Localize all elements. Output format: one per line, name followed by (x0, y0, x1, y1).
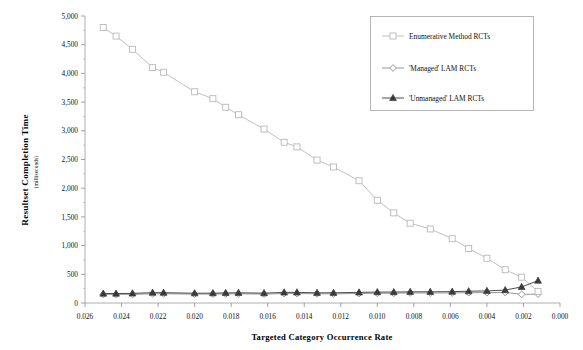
data-point-marker (161, 69, 167, 75)
legend-label: Enumerative Method RCTs (409, 32, 490, 41)
y-tick-label: 2,000 (62, 184, 79, 193)
data-point-marker (330, 164, 336, 170)
data-point-marker (466, 245, 472, 251)
y-axis-tick-labels: 05001,0001,5002,0002,5003,0003,5004,0004… (62, 12, 79, 308)
x-axis-tick-labels: 0.0260.0240.0220.0200.0180.0160.0140.012… (77, 312, 569, 321)
data-point-marker (113, 33, 119, 39)
x-tick-label: 0.018 (223, 312, 240, 321)
data-point-marker (519, 274, 525, 280)
x-tick-label: 0.010 (369, 312, 386, 321)
y-axis-title-group: Resultset Completion Time (milliseconds) (20, 114, 40, 225)
x-tick-label: 0.020 (186, 312, 203, 321)
data-point-marker (407, 220, 413, 226)
data-point-marker (130, 46, 136, 52)
x-axis-title: Targeted Category Occurrence Rate (251, 332, 392, 342)
data-point-marker (502, 267, 508, 273)
page-artifact-strip (0, 0, 583, 10)
data-point-marker (465, 288, 472, 294)
legend-label: 'Managed' LAM RCTs (409, 64, 476, 73)
chart-legend: Enumerative Method RCTs'Managed' LAM RCT… (371, 17, 534, 111)
x-tick-label: 0.008 (406, 312, 423, 321)
legend-label: 'Unmanaged' LAM RCTs (409, 94, 484, 103)
data-point-marker (281, 139, 287, 145)
x-axis-ticks (85, 303, 560, 307)
chart-canvas: 05001,0001,5002,0002,5003,0003,5004,0004… (0, 0, 583, 350)
y-tick-label: 1,000 (62, 241, 79, 250)
data-point-marker (100, 24, 106, 30)
x-tick-label: 0.000 (552, 312, 569, 321)
data-point-marker (210, 96, 216, 102)
data-point-marker (261, 126, 267, 132)
x-tick-label: 0.014 (296, 312, 313, 321)
y-tick-label: 3,000 (62, 126, 79, 135)
y-tick-label: 500 (67, 270, 78, 279)
data-point-marker (150, 65, 156, 71)
series-line (103, 281, 538, 294)
data-point-marker (427, 226, 433, 232)
y-tick-label: 4,500 (62, 40, 79, 49)
y-tick-label: 1,500 (62, 213, 79, 222)
y-tick-label: 2,500 (62, 155, 79, 164)
y-axis-title: Resultset Completion Time (20, 114, 30, 225)
x-tick-label: 0.002 (515, 312, 532, 321)
y-axis-units: (milliseconds) (33, 156, 40, 189)
y-tick-label: 3,500 (62, 98, 79, 107)
data-point-marker (390, 33, 396, 39)
data-point-marker (235, 112, 241, 118)
data-point-marker (449, 236, 455, 242)
x-tick-label: 0.016 (259, 312, 276, 321)
chart-figure: 05001,0001,5002,0002,5003,0003,5004,0004… (0, 0, 583, 350)
data-point-marker (314, 157, 320, 163)
y-tick-label: 4,000 (62, 69, 79, 78)
data-point-marker (484, 255, 490, 261)
data-point-marker (223, 104, 229, 110)
chart-series (100, 277, 542, 296)
x-tick-label: 0.004 (479, 312, 496, 321)
x-tick-label: 0.024 (113, 312, 130, 321)
data-point-marker (518, 291, 525, 298)
x-tick-label: 0.012 (333, 312, 350, 321)
data-point-marker (374, 197, 380, 203)
y-tick-label: 0 (74, 299, 78, 308)
data-point-marker (391, 210, 397, 216)
data-point-marker (192, 89, 198, 95)
data-point-marker (294, 144, 300, 150)
data-point-marker (356, 178, 362, 184)
x-tick-label: 0.006 (442, 312, 459, 321)
y-tick-label: 5,000 (62, 12, 79, 21)
x-tick-label: 0.022 (150, 312, 167, 321)
data-point-marker (535, 289, 541, 295)
data-point-marker (535, 277, 542, 283)
x-tick-label: 0.026 (77, 312, 94, 321)
